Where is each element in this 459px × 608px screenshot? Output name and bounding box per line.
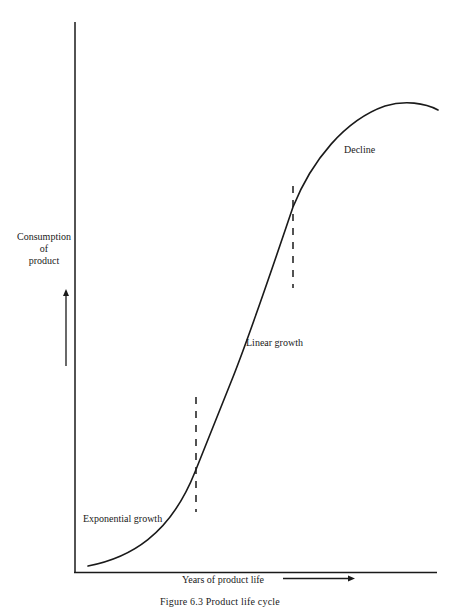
phase-label-linear: Linear growth bbox=[246, 337, 303, 349]
y-axis-label-line: product bbox=[14, 255, 74, 267]
y-direction-arrow-icon bbox=[63, 289, 69, 366]
y-axis-label: Consumption of product bbox=[14, 231, 74, 267]
y-axis-label-line: Consumption bbox=[14, 231, 74, 243]
phase-label-decline: Decline bbox=[344, 144, 375, 156]
figure-caption: Figure 6.3 Product life cycle bbox=[160, 596, 280, 608]
life-cycle-curve bbox=[88, 103, 438, 566]
x-axis-label: Years of product life bbox=[182, 574, 264, 586]
y-axis-label-line: of bbox=[14, 243, 74, 255]
x-direction-arrow-icon bbox=[283, 576, 355, 582]
phase-label-exponential: Exponential growth bbox=[83, 513, 162, 525]
